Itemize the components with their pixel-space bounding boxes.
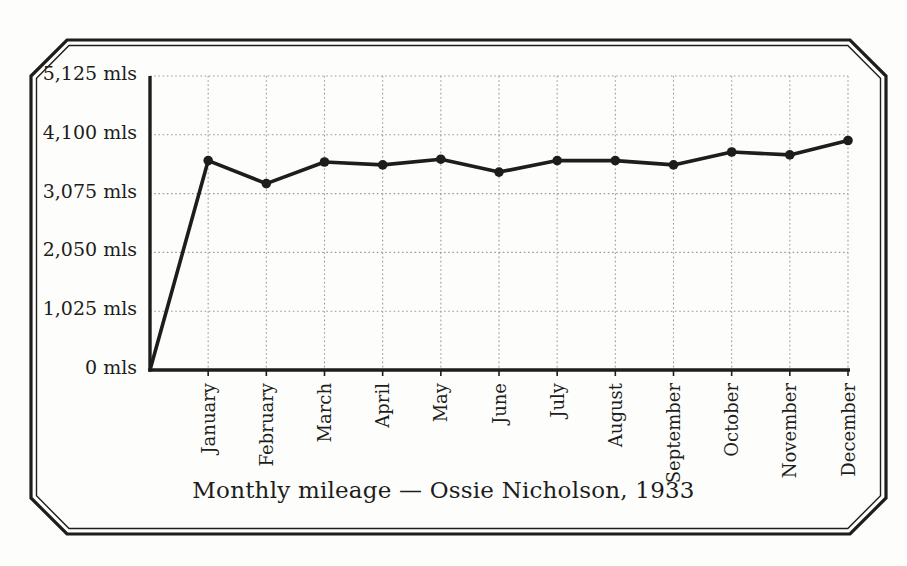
data-point-may (436, 154, 446, 164)
y-axis-label-2050: 2,050 mls (43, 238, 137, 260)
x-axis-label-december: December (838, 383, 859, 477)
x-axis-label-june: June (489, 383, 510, 426)
data-point-february (262, 179, 272, 189)
y-axis-label-0: 0 mls (85, 356, 137, 378)
y-axis-label-4100: 4,100 mls (43, 121, 137, 143)
data-point-september (669, 160, 679, 170)
frame-outer-rule (31, 40, 886, 534)
x-axis-label-october: October (721, 383, 742, 457)
data-point-august (611, 156, 621, 166)
data-point-march (320, 157, 330, 167)
data-point-june (494, 167, 504, 177)
x-axis-label-september: September (663, 383, 684, 484)
data-point-january (203, 156, 213, 166)
chart-title: Monthly mileage — Ossie Nicholson, 1933 (36, 477, 851, 503)
data-point-july (552, 156, 562, 166)
plot-area: 0 mls1,025 mls2,050 mls3,075 mls4,100 ml… (43, 62, 859, 483)
x-axis-label-january: January (198, 382, 219, 455)
chart-frame (31, 40, 886, 534)
x-axis-label-november: November (779, 383, 800, 479)
x-axis-label-march: March (314, 383, 335, 443)
y-axis-label-1025: 1,025 mls (43, 297, 137, 319)
scanned-chart-page: 0 mls1,025 mls2,050 mls3,075 mls4,100 ml… (0, 0, 907, 566)
data-point-october (727, 147, 737, 157)
y-axis-label-5125: 5,125 mls (43, 62, 137, 84)
x-axis-label-february: February (256, 382, 277, 466)
x-axis-label-april: April (372, 383, 393, 429)
y-axis-label-3075: 3,075 mls (43, 180, 137, 202)
data-point-december (843, 136, 853, 146)
x-axis-label-july: July (547, 382, 568, 420)
x-axis-label-may: May (430, 382, 451, 422)
frame-inner-rule (37, 46, 881, 529)
data-point-november (785, 150, 795, 160)
x-axis-label-august: August (605, 382, 626, 448)
data-point-april (378, 160, 388, 170)
